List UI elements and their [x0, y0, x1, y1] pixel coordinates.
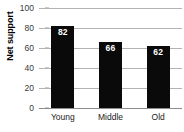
- y-axis-tick-label: 80: [10, 24, 34, 33]
- y-axis-tick-label: 100: [10, 4, 34, 13]
- bar-value-label: 82: [51, 28, 74, 37]
- bars-group: 826662: [39, 8, 182, 108]
- bar[interactable]: 62: [147, 46, 170, 108]
- bar-value-label: 62: [147, 48, 170, 57]
- bar-value-label: 66: [99, 44, 122, 53]
- x-axis-category-label: Middle: [87, 112, 135, 122]
- x-axis-category-label: Young: [39, 112, 87, 122]
- x-axis-category-label: Old: [134, 112, 182, 122]
- y-axis-tick-label: 0: [10, 104, 34, 113]
- y-axis-tick-label: 20: [10, 84, 34, 93]
- y-axis-tick-label: 40: [10, 64, 34, 73]
- bar[interactable]: 82: [51, 26, 74, 108]
- y-axis-tick-labels: 020406080100: [10, 0, 34, 132]
- bar[interactable]: 66: [99, 42, 122, 108]
- bar-slot: 82: [51, 8, 74, 108]
- x-axis-category-labels: YoungMiddleOld: [39, 112, 182, 126]
- y-axis-tick-label: 60: [10, 44, 34, 53]
- axis-baseline: [39, 108, 182, 109]
- bar-slot: 66: [99, 8, 122, 108]
- plot-area: 826662: [39, 8, 182, 108]
- bar-chart: Net support 020406080100 826662 YoungMid…: [0, 0, 184, 132]
- bar-slot: 62: [147, 8, 170, 108]
